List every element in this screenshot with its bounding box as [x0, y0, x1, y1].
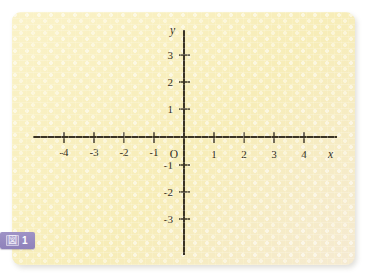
figure-glyph-icon: 図 [6, 235, 19, 246]
figure-number-label: 1 [22, 236, 28, 246]
x-tick-label: -4 [59, 146, 69, 158]
y-axis-label: y [169, 24, 176, 37]
x-tick-label: -3 [89, 146, 99, 158]
figure-panel: -4 -3 -2 -1 1 2 3 4 3 2 1 -1 -2 -3 O y x [12, 12, 355, 265]
y-tick-label: -2 [164, 186, 173, 198]
x-tick-label: 4 [301, 148, 307, 160]
y-tick-label: 1 [168, 103, 174, 115]
figure-caption-badge: 図 1 [0, 232, 35, 249]
y-tick-label: 2 [168, 76, 174, 88]
x-tick-label: -1 [149, 146, 158, 158]
y-tick-label: -1 [164, 159, 173, 171]
x-tick-label: 2 [241, 148, 247, 160]
x-axis-label: x [327, 148, 334, 160]
x-tick-label: 3 [271, 148, 277, 160]
x-tick-label: 1 [211, 148, 217, 160]
x-tick-label: -2 [119, 146, 128, 158]
origin-label: O [170, 148, 178, 160]
y-tick-label: 3 [168, 49, 174, 61]
coordinate-plane-plot: -4 -3 -2 -1 1 2 3 4 3 2 1 -1 -2 -3 O y x [12, 12, 355, 265]
y-tick-label: -3 [164, 213, 174, 225]
